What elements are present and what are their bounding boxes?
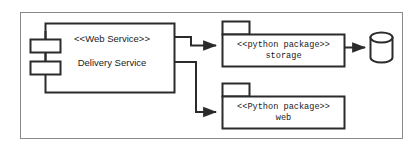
component-stereotype: <<Web Service>> [74, 33, 150, 44]
package-web-name: web [276, 113, 291, 123]
package-web-stereotype: <<Python package>> [237, 102, 330, 112]
component-tab-upper [31, 40, 61, 53]
component-delivery-service[interactable]: <<Web Service>> Delivery Service [31, 24, 175, 93]
package-storage-tab [223, 22, 250, 35]
database-top [371, 33, 393, 43]
component-tab-lower [31, 62, 61, 75]
package-storage-name: storage [265, 51, 301, 61]
uml-component-diagram: <<Web Service>> Delivery Service <<pytho… [0, 0, 419, 149]
package-web-tab [223, 84, 250, 97]
diagram-canvas: <<Web Service>> Delivery Service <<pytho… [0, 0, 419, 149]
database-cylinder[interactable] [371, 33, 393, 63]
package-storage-stereotype: <<python package>> [237, 40, 330, 50]
component-name: Delivery Service [78, 57, 147, 68]
